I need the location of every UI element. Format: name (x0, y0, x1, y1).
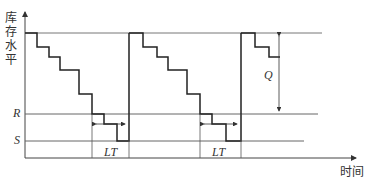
inventory-stair-cycle-2 (129, 33, 241, 141)
y-label-char: 平 (3, 53, 19, 67)
y-axis-label: 库 存 水 平 (3, 11, 19, 67)
y-label-char: 库 (3, 11, 19, 25)
reorder-point-label: R (13, 106, 20, 121)
diagram-canvas (0, 0, 368, 180)
y-label-char: 存 (3, 25, 19, 39)
lead-time-label-2: LT (212, 145, 225, 160)
order-quantity-label: Q (264, 68, 273, 83)
safety-stock-label: S (14, 133, 20, 148)
inventory-stair-cycle-1 (25, 33, 129, 141)
lead-time-label-1: LT (104, 145, 117, 160)
x-axis-label: 时间 (340, 162, 364, 179)
inventory-diagram: 库 存 水 平 R S Q LT LT 时间 (0, 0, 368, 180)
inventory-stair-cycle-3 (241, 33, 280, 57)
y-label-char: 水 (3, 39, 19, 53)
